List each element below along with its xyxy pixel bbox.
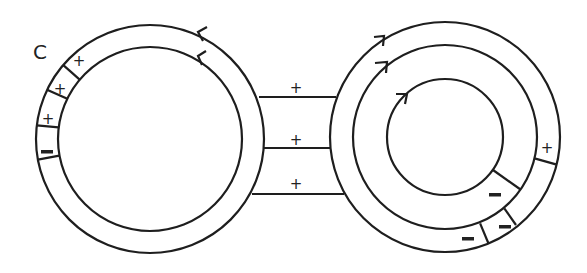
right-divider [504,208,516,225]
arrow-icon [198,51,206,65]
plus-sign: + [541,139,554,157]
right-outer-circle [330,22,560,252]
plus-sign: + [290,79,303,97]
right-divider [493,170,521,190]
right-divider [535,158,556,164]
torus-diagram: C + + + + + + [0,0,587,273]
plus-sign: + [42,110,55,128]
left-torus: + + + [36,25,264,253]
plus-sign: + [73,52,86,70]
right-divider [480,223,488,243]
minus-sign [489,193,501,197]
left-divider [38,156,59,160]
minus-sign [462,237,474,241]
right-torus: + [330,22,560,252]
minus-sign [499,225,511,229]
right-inner-circle [387,79,503,195]
plus-sign: + [290,131,303,149]
right-middle-circle [353,45,537,229]
diagram-label: C [33,40,47,64]
plus-sign: + [54,80,67,98]
plus-sign: + [290,175,303,193]
minus-sign [41,150,53,154]
left-inner-circle [58,47,242,231]
left-outer-circle [36,25,264,253]
